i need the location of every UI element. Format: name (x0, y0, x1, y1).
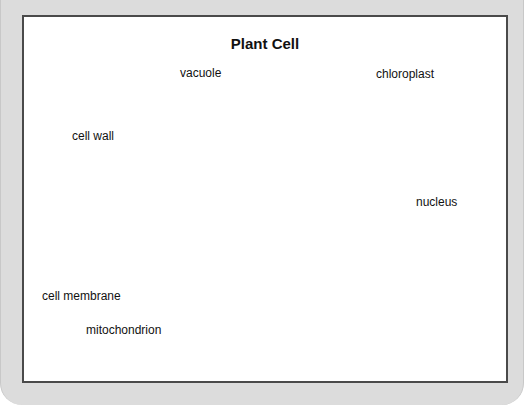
label-chloroplast: chloroplast (376, 67, 434, 81)
diagram-title: Plant Cell (24, 35, 506, 52)
label-nucleus: nucleus (416, 195, 457, 209)
label-vacuole: vacuole (180, 66, 221, 80)
label-mitochondrion: mitochondrion (86, 323, 161, 337)
label-cell-wall: cell wall (72, 129, 114, 143)
label-cell-membrane: cell membrane (42, 289, 121, 303)
